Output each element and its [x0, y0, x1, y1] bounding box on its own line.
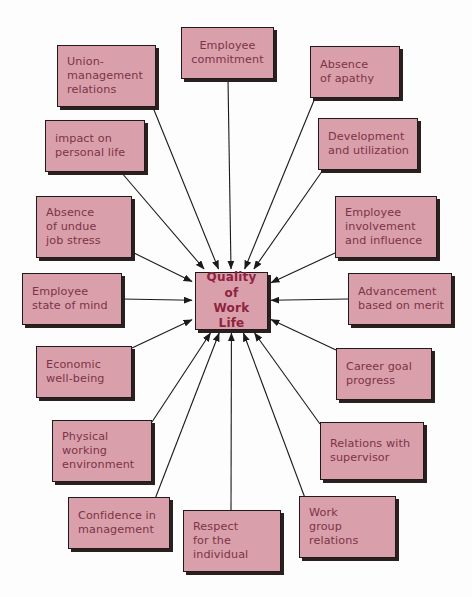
node-impact-on-personal-life[interactable]: impact on personal life — [45, 120, 145, 172]
node-advancement-based-on-merit[interactable]: Advancement based on merit — [348, 273, 452, 325]
arrow-union-management-relations-to-center — [152, 105, 219, 269]
node-work-group-relations[interactable]: Work group relations — [299, 496, 396, 558]
arrow-relations-with-supervisor-to-center — [255, 333, 320, 424]
node-employee-state-of-mind[interactable]: Employee state of mind — [22, 273, 122, 325]
node-relations-with-supervisor[interactable]: Relations with supervisor — [320, 422, 424, 480]
diagram-canvas: Quality of Work Life Union- management r… — [0, 0, 472, 597]
arrow-economic-well-being-to-center — [132, 320, 192, 348]
arrow-employee-involvement-and-influence-to-center — [271, 253, 335, 283]
node-career-goal-progress[interactable]: Career goal progress — [336, 348, 432, 400]
node-respect-for-the-individual[interactable]: Respect for the individual — [183, 510, 281, 572]
node-center[interactable]: Quality of Work Life — [195, 272, 268, 330]
arrow-impact-on-personal-life-to-center — [121, 172, 204, 269]
node-absence-of-apathy[interactable]: Absence of apathy — [310, 46, 400, 98]
node-development-and-utilization[interactable]: Development and utilization — [318, 118, 418, 170]
node-employee-commitment[interactable]: Employee commitment — [181, 27, 274, 79]
arrow-employee-commitment-to-center — [228, 79, 231, 269]
arrow-absence-of-undue-job-stress-to-center — [132, 252, 192, 282]
arrow-work-group-relations-to-center — [243, 333, 305, 498]
node-physical-working-environment[interactable]: Physical working environment — [52, 420, 152, 482]
arrow-employee-state-of-mind-to-center — [122, 299, 192, 300]
arrow-physical-working-environment-to-center — [152, 333, 210, 422]
node-absence-of-undue-job-stress[interactable]: Absence of undue job stress — [36, 196, 132, 258]
node-confidence-in-management[interactable]: Confidence in management — [68, 497, 170, 549]
arrow-absence-of-apathy-to-center — [245, 98, 315, 269]
node-economic-well-being[interactable]: Economic well-being — [36, 346, 132, 398]
arrow-career-goal-progress-to-center — [271, 320, 336, 350]
arrow-advancement-based-on-merit-to-center — [271, 299, 348, 300]
node-employee-involvement-and-influence[interactable]: Employee involvement and influence — [335, 196, 437, 258]
node-union-management-relations[interactable]: Union- management relations — [57, 45, 156, 107]
arrow-confidence-in-management-to-center — [155, 333, 219, 499]
arrow-development-and-utilization-to-center — [254, 170, 323, 269]
